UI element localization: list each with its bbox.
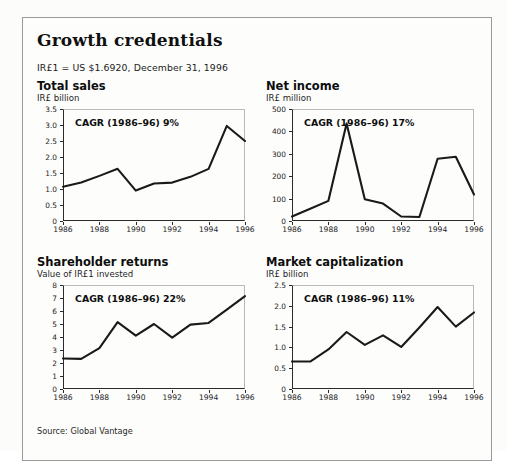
chart-unit-total-sales: IR£ billion [37, 93, 249, 104]
cagr-annotation-shareholder-returns: CAGR (1986–96) 22% [75, 293, 185, 304]
chart-title-net-income: Net income [266, 80, 478, 93]
chart-unit-market-capitalization: IR£ billion [266, 269, 478, 280]
chart-panel-net-income: Net incomeIR£ million0100200300400500198… [266, 80, 478, 237]
chart-panel-shareholder-returns: Shareholder returnsValue of IR£1 investe… [37, 256, 249, 405]
chart-title-market-capitalization: Market capitalization [266, 256, 478, 269]
exhibit-frame: Growth credentials IR£1 = US $1.6920, De… [22, 17, 492, 461]
cagr-annotation-net-income: CAGR (1986–96) 17% [304, 117, 414, 128]
plot-area-market-capitalization: 00.51.01.52.02.5198619881990199219941996… [266, 283, 478, 405]
page-title: Growth credentials [37, 30, 223, 50]
plot-area-net-income: 0100200300400500198619881990199219941996… [266, 107, 478, 237]
plot-area-shareholder-returns: 012345678198619881990199219941996CAGR (1… [37, 283, 249, 405]
chart-unit-shareholder-returns: Value of IR£1 invested [37, 269, 249, 280]
chart-title-shareholder-returns: Shareholder returns [37, 256, 249, 269]
cagr-annotation-total-sales: CAGR (1986–96) 9% [75, 117, 179, 128]
chart-panel-total-sales: Total salesIR£ billion00.51.01.52.02.53.… [37, 80, 249, 237]
exchange-rate-note: IR£1 = US $1.6920, December 31, 1996 [37, 62, 228, 73]
plot-area-total-sales: 00.51.01.52.02.53.03.5198619881990199219… [37, 107, 249, 237]
chart-panel-market-capitalization: Market capitalizationIR£ billion00.51.01… [266, 256, 478, 405]
chart-title-total-sales: Total sales [37, 80, 249, 93]
cagr-annotation-market-capitalization: CAGR (1986–96) 11% [304, 293, 414, 304]
source-note: Source: Global Vantage [37, 426, 133, 436]
chart-unit-net-income: IR£ million [266, 93, 478, 104]
